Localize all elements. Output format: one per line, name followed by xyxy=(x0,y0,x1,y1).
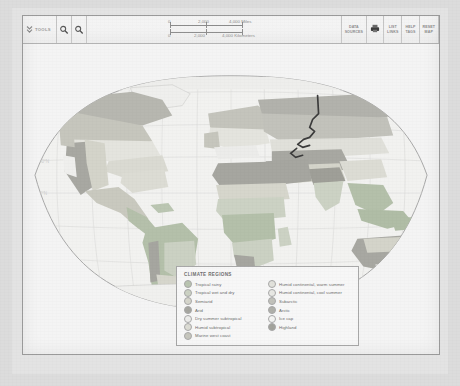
region-australia-humid-subtropical xyxy=(401,241,423,261)
legend-item-arctic[interactable]: Arctic xyxy=(268,306,352,315)
legend-label-subarctic: Subarctic xyxy=(279,299,297,304)
legend-label-humid-subtropical: Humid subtropical xyxy=(195,325,230,330)
scale-label-miles-end: 4,000 Miles xyxy=(229,19,251,24)
zoom-in-button[interactable] xyxy=(57,16,72,43)
region-new-zealand xyxy=(415,271,431,287)
legend-label-marine-west-coast: Marine west coast xyxy=(195,333,230,338)
lat-label-20n: 20°N xyxy=(37,191,47,196)
legend-label-ice-cap: Ice cap xyxy=(279,316,293,321)
legend-swatch-semiarid xyxy=(184,297,192,305)
legend-item-humid-continental-cool-summer[interactable]: Humid continental, cool summer xyxy=(268,289,352,298)
data-sources-label-line2: SOURCES xyxy=(345,30,363,34)
legend-column-left: Tropical rainy Tropical wet and dry Semi… xyxy=(184,280,268,340)
printer-icon xyxy=(370,24,380,34)
legend-item-tropical-wet-and-dry[interactable]: Tropical wet and dry xyxy=(184,289,268,298)
legend-item-marine-west-coast[interactable]: Marine west coast xyxy=(184,332,268,341)
legend-label-semiarid: Semiarid xyxy=(195,299,212,304)
help-tags-label-line2: TAGS xyxy=(405,30,415,34)
legend-columns: Tropical rainy Tropical wet and dry Semi… xyxy=(184,280,352,340)
legend-label-dry-summer-subtropical: Dry summer subtropical xyxy=(195,316,241,321)
region-australia-semiarid xyxy=(363,237,411,253)
legend-item-dry-summer-subtropical[interactable]: Dry summer subtropical xyxy=(184,314,268,323)
legend-label-arctic: Arctic xyxy=(279,308,290,313)
scale-label-miles-start: 0 xyxy=(168,19,170,24)
lon-label-120w: 120°W xyxy=(101,302,115,307)
legend-column-right: Humid continental, warm summer Humid con… xyxy=(268,280,352,340)
scale-row-miles: 0 2,000 4,000 Miles xyxy=(165,19,273,29)
reset-map-button[interactable]: RESET MAP xyxy=(420,16,439,43)
region-marine-west-coast-europe xyxy=(204,131,220,149)
lon-label-90w: 90°W xyxy=(134,303,146,308)
legend-item-humid-continental-warm-summer[interactable]: Humid continental, warm summer xyxy=(268,280,352,289)
legend-swatch-tropical-rainy xyxy=(184,280,192,288)
legend-item-humid-subtropical[interactable]: Humid subtropical xyxy=(184,323,268,332)
scale-tick-km-mid xyxy=(206,29,207,35)
data-sources-button[interactable]: DATA SOURCES xyxy=(341,16,367,43)
legend-item-semiarid[interactable]: Semiarid xyxy=(184,297,268,306)
list-links-label-line2: LINKS xyxy=(387,30,398,34)
legend-swatch-humid-continental-cool-summer xyxy=(268,289,276,297)
map-scale-bar: 0 2,000 4,000 Miles 0 2,000 4,000 Kilome… xyxy=(165,19,273,41)
region-china-humid-subtropical xyxy=(339,159,387,181)
zoom-out-button[interactable] xyxy=(72,16,87,43)
list-links-button[interactable]: LIST LINKS xyxy=(384,16,402,43)
legend-swatch-arid xyxy=(184,306,192,314)
legend-label-highland: Highland xyxy=(279,325,296,330)
legend-label-humid-continental-cool-summer: Humid continental, cool summer xyxy=(279,290,342,295)
legend-label-arid: Arid xyxy=(195,308,203,313)
double-chevron-down-icon xyxy=(26,25,33,35)
lon-label-150w: 150°W xyxy=(67,300,81,305)
legend-label-tropical-wet-and-dry: Tropical wet and dry xyxy=(195,290,235,295)
magnifier-plus-icon xyxy=(59,21,69,39)
legend-swatch-arctic xyxy=(268,306,276,314)
region-marine-west-coast-na xyxy=(59,120,75,148)
legend-item-arid[interactable]: Arid xyxy=(184,306,268,315)
legend-label-humid-continental-warm-summer: Humid continental, warm summer xyxy=(279,282,345,287)
map-application-window: TOOLS xyxy=(22,15,440,355)
lat-label-80n: 80°N xyxy=(49,102,59,107)
legend-swatch-ice-cap xyxy=(268,315,276,323)
help-tags-button[interactable]: HELP TAGS xyxy=(402,16,419,43)
legend-swatch-dry-summer-subtropical xyxy=(184,315,192,323)
magnifier-minus-icon xyxy=(74,21,84,39)
legend-label-tropical-rainy: Tropical rainy xyxy=(195,282,221,287)
legend-swatch-tropical-wet-and-dry xyxy=(184,289,192,297)
scale-label-km-mid: 2,000 xyxy=(194,33,205,38)
legend-item-ice-cap[interactable]: Ice cap xyxy=(268,314,352,323)
legend-swatch-humid-subtropical xyxy=(184,323,192,331)
lat-label-0: 0° xyxy=(39,223,44,228)
scale-label-miles-mid: 2,000 xyxy=(198,19,209,24)
scale-label-km-start: 0 xyxy=(168,33,170,38)
region-mediterranean-dry-summer xyxy=(214,145,260,159)
legend-item-tropical-rainy[interactable]: Tropical rainy xyxy=(184,280,268,289)
legend-swatch-marine-west-coast xyxy=(184,332,192,340)
toolbar-right-group: DATA SOURCES LIST LINKS xyxy=(341,16,439,43)
lat-label-40n: 40°N xyxy=(39,159,49,164)
lat-label-60n: 60°N xyxy=(43,131,53,136)
legend-swatch-humid-continental-warm-summer xyxy=(268,280,276,288)
climate-regions-legend: CLIMATE REGIONS Tropical rainy Tropical … xyxy=(176,266,359,346)
scale-row-kilometers: 0 2,000 4,000 Kilometers xyxy=(165,30,273,40)
tools-menu-label: TOOLS xyxy=(35,27,51,32)
scale-label-km-end: 4,000 Kilometers xyxy=(222,33,255,38)
lat-label-20s: 20°S xyxy=(43,255,53,260)
legend-title: CLIMATE REGIONS xyxy=(184,272,352,277)
lat-label-40s: 40°S xyxy=(53,284,63,289)
legend-swatch-subarctic xyxy=(268,297,276,305)
legend-item-highland[interactable]: Highland xyxy=(268,323,352,332)
reset-map-label-line2: MAP xyxy=(425,30,433,34)
region-new-guinea xyxy=(391,217,417,231)
print-button[interactable] xyxy=(367,16,384,43)
screenshot-root: TOOLS xyxy=(0,0,460,386)
tools-menu-button[interactable]: TOOLS xyxy=(23,16,57,43)
region-australia-dry-summer xyxy=(375,263,403,275)
legend-swatch-highland xyxy=(268,323,276,331)
legend-item-subarctic[interactable]: Subarctic xyxy=(268,297,352,306)
